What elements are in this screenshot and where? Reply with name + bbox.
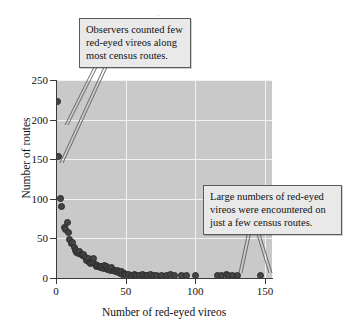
data-point (64, 219, 71, 226)
gridline-x-100 (195, 80, 196, 278)
data-point (57, 195, 64, 202)
y-axis-title: Number of routes (20, 88, 32, 228)
figure-container: ' 050100150200250 050100150 Number of re… (0, 0, 352, 332)
x-tick-label: 0 (36, 286, 76, 297)
y-tick-mark (50, 80, 56, 81)
y-tick-mark (50, 199, 56, 200)
x-tick-mark (56, 279, 57, 284)
y-tick-mark (50, 238, 56, 239)
x-tick-label: 100 (175, 286, 215, 297)
y-tick-label: 0 (6, 273, 48, 284)
gridline-x-150 (265, 80, 266, 278)
gridline-y-150 (56, 159, 272, 160)
x-tick-mark (126, 279, 127, 284)
data-point (58, 203, 65, 210)
annotation-callout-top: Observers counted few red-eyed vireos al… (79, 18, 191, 68)
x-tick-mark (265, 279, 266, 284)
y-tick-mark (50, 120, 56, 121)
x-tick-mark (195, 279, 196, 284)
y-tick-label: 50 (6, 233, 48, 244)
annotation-callout-bottom: Large numbers of red-eyed vireos were en… (203, 185, 342, 235)
data-point (65, 229, 72, 236)
y-tick-label: 250 (6, 75, 48, 86)
x-tick-label: 50 (106, 286, 146, 297)
plot-area (56, 80, 272, 278)
gridline-x-50 (126, 80, 127, 278)
gridline-y-250 (56, 80, 272, 81)
gridline-y-50 (56, 238, 272, 239)
x-axis-title: Number of red-eyed vireos (56, 306, 272, 318)
x-axis-line (56, 278, 273, 279)
y-axis-line (56, 80, 57, 279)
x-tick-label: 150 (245, 286, 285, 297)
gridline-y-200 (56, 120, 272, 121)
y-tick-mark (50, 159, 56, 160)
